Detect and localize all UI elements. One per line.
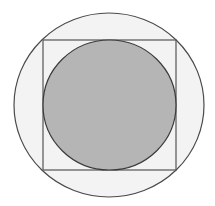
inner-circle: [43, 40, 176, 170]
nested-shapes-diagram: [0, 0, 215, 206]
diagram-canvas: [0, 0, 215, 206]
